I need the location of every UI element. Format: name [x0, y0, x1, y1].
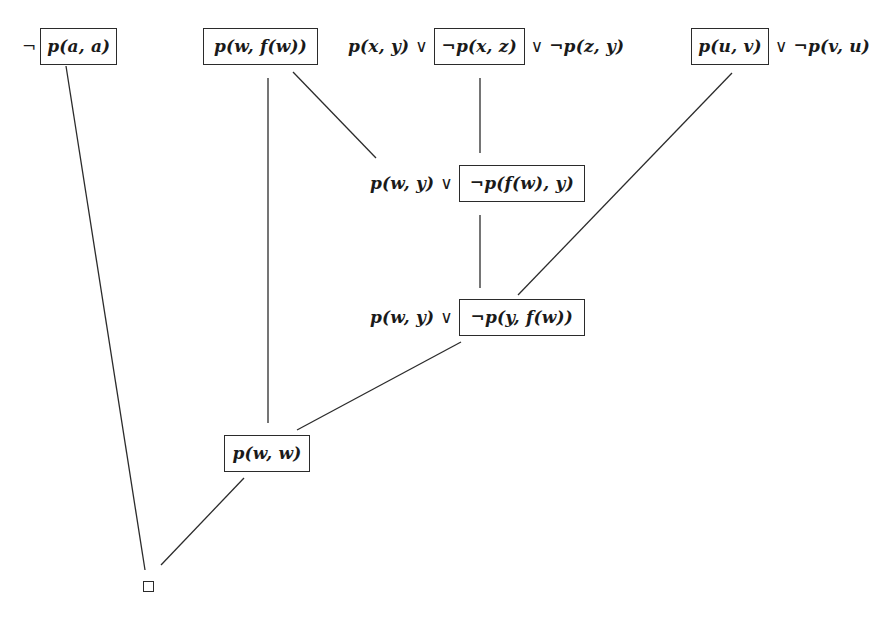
clause-p-w-fw: p(w, f(w))	[203, 28, 318, 65]
resolved-literal-box: ¬p(y, f(w))	[459, 299, 585, 336]
literal: p(w, y)	[370, 175, 434, 192]
negation-symbol: ¬	[22, 38, 40, 55]
or-symbol: ∨	[409, 38, 433, 55]
or-symbol: ∨	[525, 38, 549, 55]
resolved-literal-box: p(w, w)	[224, 435, 310, 472]
or-symbol: ∨	[434, 175, 458, 192]
clause-symmetry: p(u, v) ∨ ¬p(v, u)	[691, 28, 870, 65]
clause-not-p-a-a: ¬ p(a, a)	[22, 28, 117, 65]
literal: ¬p(v, u)	[793, 38, 870, 55]
edge-n6-n7	[297, 342, 461, 430]
resolved-literal-box: p(a, a)	[40, 28, 117, 65]
clause-transitivity: p(x, y) ∨ ¬p(x, z) ∨ ¬p(z, y)	[348, 28, 624, 65]
edge-n2-n5	[293, 72, 376, 158]
resolvent-3: p(w, w)	[224, 435, 310, 472]
edge-n1-n8	[66, 66, 145, 570]
resolvent-1: p(w, y) ∨ ¬p(f(w), y)	[370, 165, 585, 202]
empty-clause-icon	[143, 581, 154, 592]
resolution-diagram: ¬ p(a, a) p(w, f(w)) p(x, y) ∨ ¬p(x, z) …	[0, 0, 894, 628]
resolved-literal-box: ¬p(x, z)	[434, 28, 525, 65]
literal: ¬p(z, y)	[549, 38, 624, 55]
or-symbol: ∨	[769, 38, 793, 55]
or-symbol: ∨	[434, 309, 458, 326]
resolved-literal-box: p(w, f(w))	[203, 28, 318, 65]
resolved-literal-box: p(u, v)	[691, 28, 769, 65]
literal: p(w, y)	[370, 309, 434, 326]
literal: p(x, y)	[348, 38, 409, 55]
edge-n7-n8	[161, 478, 244, 565]
resolved-literal-box: ¬p(f(w), y)	[459, 165, 585, 202]
resolvent-2: p(w, y) ∨ ¬p(y, f(w))	[370, 299, 585, 336]
